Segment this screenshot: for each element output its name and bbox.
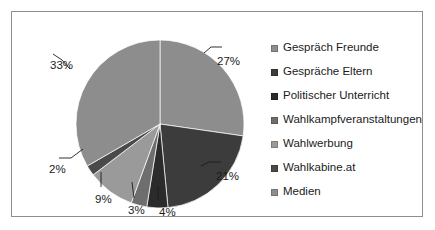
pie-label-21: 21% xyxy=(216,170,239,182)
legend-item-label: Wahlwerbung xyxy=(283,138,353,150)
legend-item-label: Gespräch Freunde xyxy=(283,42,379,54)
legend-swatch-icon xyxy=(271,141,278,148)
legend-swatch-icon xyxy=(271,189,278,196)
legend-item[interactable]: Wahlkabine.at xyxy=(271,156,435,180)
pie-chart-figure: 27% 33% 21% 2% 9% 3% 4% Gespräch Freunde… xyxy=(0,0,435,230)
chart-legend: Gespräch FreundeGespräche ElternPolitisc… xyxy=(271,36,435,204)
legend-item-label: Medien xyxy=(283,186,321,198)
legend-item-label: Gespräche Eltern xyxy=(283,66,373,78)
legend-item-label: Politischer Unterricht xyxy=(283,90,389,102)
legend-item[interactable]: Gespräche Eltern xyxy=(271,60,435,84)
legend-swatch-icon xyxy=(271,117,278,124)
legend-item-label: Wahlkampfveranstaltungen xyxy=(283,114,422,126)
legend-item[interactable]: Medien xyxy=(271,180,435,204)
pie-label-27: 27% xyxy=(217,55,240,67)
legend-item[interactable]: Gespräch Freunde xyxy=(271,36,435,60)
legend-swatch-icon xyxy=(271,69,278,76)
pie-label-33: 33% xyxy=(50,59,73,71)
chart-frame: 27% 33% 21% 2% 9% 3% 4% Gespräch Freunde… xyxy=(11,11,423,217)
pie-label-3: 3% xyxy=(128,204,145,216)
legend-item[interactable]: Wahlkampfveranstaltungen xyxy=(271,108,435,132)
legend-item[interactable]: Politischer Unterricht xyxy=(271,84,435,108)
legend-item[interactable]: Wahlwerbung xyxy=(271,132,435,156)
pie-label-2: 2% xyxy=(49,163,66,175)
legend-swatch-icon xyxy=(271,45,278,52)
legend-item-label: Wahlkabine.at xyxy=(283,162,355,174)
pie-label-9: 9% xyxy=(95,193,112,205)
legend-swatch-icon xyxy=(271,93,278,100)
pie-label-4: 4% xyxy=(159,206,176,218)
legend-swatch-icon xyxy=(271,165,278,172)
